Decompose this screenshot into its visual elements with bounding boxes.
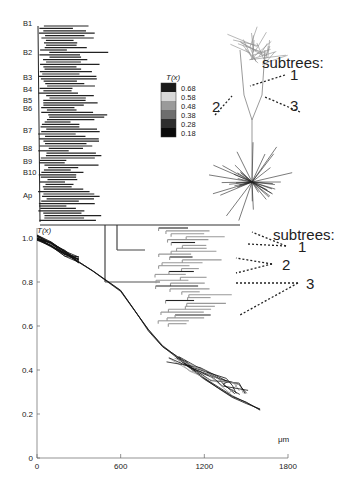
svg-text:1: 1: [290, 66, 298, 83]
chart-series: [37, 235, 260, 410]
legend-label: 0.58: [181, 93, 196, 102]
y-axis-label: T(x): [37, 226, 52, 235]
branch-label: B4: [23, 85, 32, 94]
x-tick-label: 0: [35, 462, 40, 471]
legend-label: 0.18: [181, 129, 196, 138]
x-tick-label: 600: [114, 462, 128, 471]
svg-text:2: 2: [282, 256, 290, 273]
svg-text:3: 3: [290, 97, 298, 114]
branch-label: B1: [23, 19, 32, 28]
branch-label: Ap: [23, 191, 32, 200]
dendrogram-apical: [40, 225, 240, 327]
legend-swatch: [161, 101, 176, 110]
x-axis-label: μm: [278, 435, 290, 444]
y-tick-label: 0.4: [22, 366, 34, 375]
x-tick-label: 1200: [195, 462, 213, 471]
legend-swatch: [161, 128, 176, 137]
legend-label: 0.48: [181, 102, 196, 111]
legend-swatch: [161, 92, 176, 101]
legend-label: 0.28: [181, 120, 196, 129]
y-tick-label: 1.0: [22, 234, 34, 243]
dendrogram-basal: [38, 26, 108, 222]
legend: T(x)0.680.580.480.380.280.18: [161, 73, 196, 138]
figure-canvas: B1B2B3B4B5B6B7B8B9B10ApT(x)0.680.580.480…: [0, 0, 348, 493]
branch-label: B10: [23, 168, 36, 177]
svg-text:3: 3: [306, 275, 314, 292]
legend-label: 0.68: [181, 84, 196, 93]
annotations-top: subtrees:123: [212, 54, 324, 115]
branch-label: B2: [23, 48, 32, 57]
y-tick-label: 0.6: [22, 322, 34, 331]
legend-swatch: [161, 119, 176, 128]
svg-text:1: 1: [298, 238, 306, 255]
legend-swatch: [161, 83, 176, 92]
branch-label: B3: [23, 73, 32, 82]
branch-label: B7: [23, 126, 32, 135]
branch-label: B6: [23, 104, 32, 113]
legend-title: T(x): [166, 73, 181, 82]
svg-text:2: 2: [212, 98, 220, 115]
y-tick-label: 0.2: [22, 410, 34, 419]
branch-label: B9: [23, 157, 32, 166]
legend-label: 0.38: [181, 111, 196, 120]
y-tick-label: 0.8: [22, 278, 34, 287]
branch-label: B8: [23, 144, 32, 153]
x-tick-label: 1800: [279, 462, 297, 471]
legend-swatch: [161, 110, 176, 119]
annotations-mid: subtrees:123: [236, 226, 335, 315]
y-tick-label: 0: [29, 454, 34, 463]
